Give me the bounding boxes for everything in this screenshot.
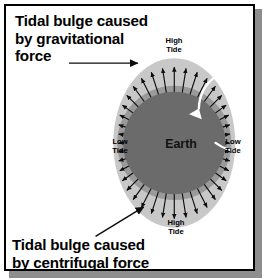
label-high-tide-top: High Tide (154, 36, 194, 55)
centrifugal-pointer-arrow (96, 207, 144, 237)
diagram-frame: Tidal bulge caused by gravitational forc… (4, 4, 255, 271)
tidal-bulge-figure: Tidal bulge caused by gravitational forc… (0, 0, 264, 280)
label-earth: Earth (150, 137, 212, 151)
label-high-tide-bottom: High Tide (156, 218, 196, 237)
caption-gravitational: Tidal bulge caused by gravitational forc… (15, 12, 175, 65)
caption-centrifugal: Tidal bulge caused by centrifugal force (12, 236, 242, 271)
label-low-tide-left: Low Tide (105, 137, 135, 156)
label-low-tide-right: Low Tide (218, 137, 248, 156)
